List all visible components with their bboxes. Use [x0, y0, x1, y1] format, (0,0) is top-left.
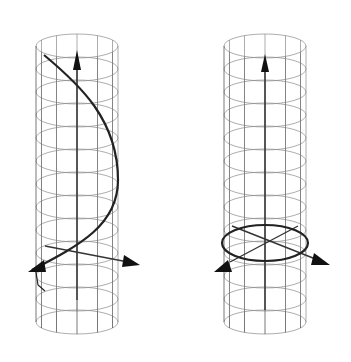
- figure-svg: [0, 0, 351, 362]
- right-arrow-icon: [311, 253, 330, 265]
- right-arrow-icon: [122, 255, 140, 267]
- up-arrow-icon: [73, 50, 81, 70]
- left-arrow-icon: [28, 260, 46, 272]
- right-vertical-axis: [261, 54, 269, 310]
- diagram-canvas: [0, 0, 351, 362]
